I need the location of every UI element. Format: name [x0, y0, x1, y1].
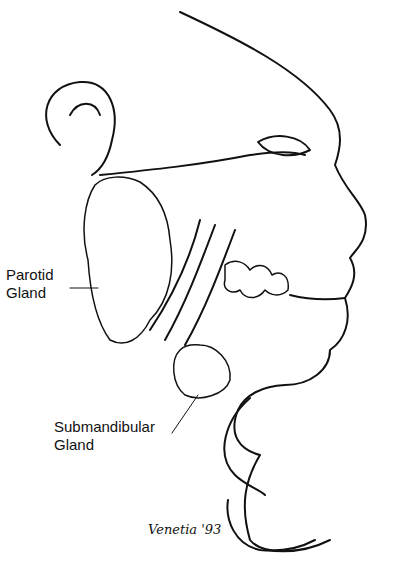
ear-inner	[70, 104, 100, 115]
mouth-line	[290, 295, 345, 299]
parotid-gland-label: Parotid Gland	[6, 266, 54, 302]
submandibular-label-line1: Submandibular	[54, 418, 155, 436]
submandibular-gland-label: Submandibular Gland	[54, 418, 155, 454]
teeth	[224, 261, 288, 297]
illustration-canvas: Parotid Gland Submandibular Gland Veneti…	[0, 0, 401, 565]
chin-curve	[227, 500, 315, 551]
zygomatic-line	[100, 152, 305, 175]
neck-line	[224, 398, 265, 495]
muscle-band-left	[150, 220, 200, 330]
submandibular-leader-line	[172, 395, 198, 433]
face-illustration	[0, 0, 401, 565]
muscle-band-inner	[165, 225, 215, 340]
artist-signature: Venetia '93	[148, 522, 221, 537]
submandibular-gland	[174, 345, 230, 398]
face-profile-outline	[180, 12, 366, 551]
submandibular-label-line2: Gland	[54, 436, 155, 454]
ear-outline	[46, 82, 115, 175]
parotid-label-line2: Gland	[6, 284, 54, 302]
parotid-label-line1: Parotid	[6, 266, 54, 284]
